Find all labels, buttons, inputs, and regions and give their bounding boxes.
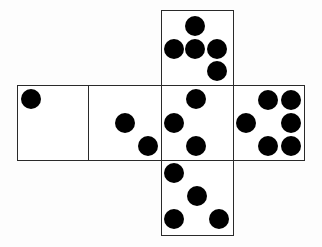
- cube-net-diagram: [0, 0, 322, 247]
- pip-dot: [186, 89, 206, 109]
- pip-dot: [281, 136, 301, 156]
- pip-dot: [281, 113, 301, 133]
- pip-dot: [258, 90, 278, 110]
- pip-dot: [186, 136, 206, 156]
- pip-dot: [207, 61, 227, 81]
- pip-dot: [21, 89, 41, 109]
- pip-dot: [164, 163, 184, 183]
- pip-dot: [187, 186, 207, 206]
- pip-dot: [258, 136, 278, 156]
- pip-dot: [138, 136, 158, 156]
- pip-dot: [164, 113, 184, 133]
- pip-dot: [115, 113, 135, 133]
- pip-dot: [164, 39, 184, 59]
- pip-dot: [281, 90, 301, 110]
- pip-dot: [236, 113, 256, 133]
- pip-dot: [207, 39, 227, 59]
- pip-dot: [209, 209, 229, 229]
- pip-dot: [164, 209, 184, 229]
- pip-dot: [185, 39, 205, 59]
- pip-dot: [185, 16, 205, 36]
